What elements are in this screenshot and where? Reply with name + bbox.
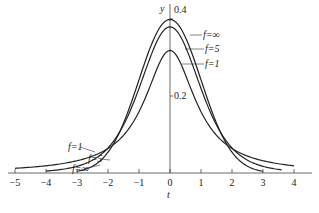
x-tick-label: 0	[168, 177, 173, 188]
t-distribution-chart: −5−4−3−2−101234 y 0.4 0.2 t f=∞ f=5 f=1 …	[0, 0, 319, 213]
annotation-left-f-5: f=5	[88, 153, 103, 164]
x-axis-label: t	[167, 189, 170, 200]
y-tick-0.2: 0.2	[174, 90, 187, 101]
curves	[15, 19, 294, 171]
x-tick-label: 2	[230, 177, 235, 188]
annotation-right-f-inf: f=∞	[203, 29, 220, 40]
annotation-right-f-1: f=1	[205, 58, 220, 69]
axes: −5−4−3−2−101234	[8, 4, 312, 188]
y-axis-label: y	[159, 3, 165, 14]
annotation-right-f-5: f=5	[205, 43, 220, 54]
x-tick-label: −4	[41, 177, 52, 188]
x-tick-label: 4	[292, 177, 297, 188]
curve-f=1	[15, 50, 294, 168]
x-tick-label: −1	[134, 177, 145, 188]
x-tick-label: 1	[199, 177, 204, 188]
x-tick-label: −3	[72, 177, 83, 188]
y-tick-0.4: 0.4	[174, 4, 187, 15]
annotation-left-f-1: f=1	[68, 141, 83, 152]
x-tick-label: 3	[261, 177, 266, 188]
chart-canvas: −5−4−3−2−101234 y 0.4 0.2 t f=∞ f=5 f=1 …	[0, 0, 319, 213]
x-tick-label: −5	[10, 177, 21, 188]
x-tick-label: −2	[103, 177, 114, 188]
annotation-left-f-inf: f=∞	[72, 163, 89, 174]
